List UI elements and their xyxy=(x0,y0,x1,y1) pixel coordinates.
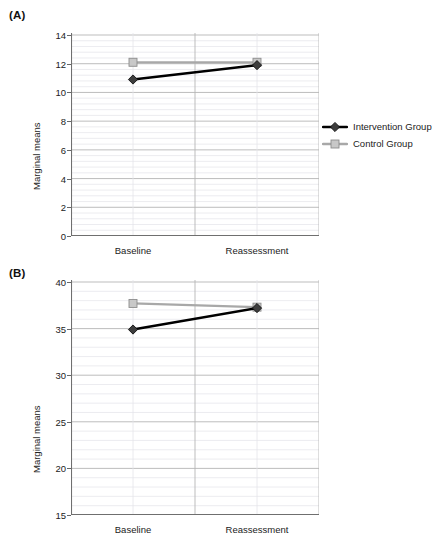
legend-label: Intervention Group xyxy=(353,121,432,132)
y-axis-tick-label: 30 xyxy=(55,370,66,381)
legend-square-marker-icon xyxy=(322,138,348,150)
y-axis-tick-mark xyxy=(67,329,71,330)
y-axis-tick-label: 4 xyxy=(61,173,66,184)
figure-interaction-plots: (A) Marginal means 02468101214 BaselineR… xyxy=(0,0,442,548)
legend-item: Intervention Group xyxy=(322,118,432,135)
y-axis-tick-label: 35 xyxy=(55,323,66,334)
y-axis-tick-mark xyxy=(67,92,71,93)
legend-label: Control Group xyxy=(353,138,413,149)
y-axis-tick-label: 12 xyxy=(55,58,66,69)
y-axis-tick-mark xyxy=(67,375,71,376)
y-axis-tick-label: 8 xyxy=(61,116,66,127)
y-axis-tick-label: 20 xyxy=(55,463,66,474)
x-axis-tick-label: Baseline xyxy=(115,245,151,256)
panel-b-y-axis-title: Marginal means xyxy=(31,405,42,473)
panel-a-chart-svg xyxy=(71,33,319,236)
y-axis-tick-mark xyxy=(67,121,71,122)
legend-diamond-marker-icon xyxy=(322,121,348,133)
panel-b-canvas xyxy=(71,280,319,515)
panel-a-canvas xyxy=(71,33,319,236)
y-axis-tick-label: 14 xyxy=(55,30,66,41)
y-axis-tick-mark xyxy=(67,179,71,180)
legend-item: Control Group xyxy=(322,135,432,152)
y-axis-tick-label: 2 xyxy=(61,202,66,213)
panel-a-label: (A) xyxy=(9,9,26,21)
y-axis-tick-label: 6 xyxy=(61,144,66,155)
y-axis-tick-mark xyxy=(67,236,71,237)
y-axis-tick-label: 15 xyxy=(55,510,66,521)
panel-b-label: (B) xyxy=(9,267,26,279)
panel-b: (B) Marginal means 152025303540 Baseline… xyxy=(0,258,442,548)
y-axis-tick-label: 40 xyxy=(55,277,66,288)
panel-a-plot-area: 02468101214 BaselineReassessment xyxy=(71,33,319,236)
y-axis-tick-mark xyxy=(67,422,71,423)
y-axis-tick-mark xyxy=(67,468,71,469)
x-axis-tick-label: Reassessment xyxy=(226,524,289,535)
y-axis-tick-mark xyxy=(67,282,71,283)
panel-a: (A) Marginal means 02468101214 BaselineR… xyxy=(0,0,442,258)
panel-a-legend: Intervention GroupControl Group xyxy=(322,118,432,152)
y-axis-tick-mark xyxy=(67,515,71,516)
x-axis-tick-label: Baseline xyxy=(115,524,151,535)
y-axis-tick-mark xyxy=(67,35,71,36)
y-axis-tick-mark xyxy=(67,207,71,208)
panel-b-plot-area: 152025303540 BaselineReassessment xyxy=(71,280,319,515)
y-axis-tick-label: 10 xyxy=(55,87,66,98)
y-axis-tick-label: 25 xyxy=(55,416,66,427)
y-axis-tick-mark xyxy=(67,64,71,65)
x-axis-tick-label: Reassessment xyxy=(226,245,289,256)
y-axis-tick-label: 0 xyxy=(61,231,66,242)
panel-b-chart-svg xyxy=(71,280,319,515)
y-axis-tick-mark xyxy=(67,150,71,151)
panel-a-y-axis-title: Marginal means xyxy=(31,122,42,190)
